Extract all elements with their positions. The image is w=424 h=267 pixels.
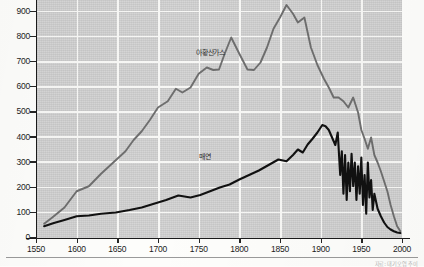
series-annotation-so2: 아황산가스 xyxy=(196,47,225,57)
caption-divider xyxy=(6,257,418,258)
series-annotation-soot: 매연 xyxy=(199,151,210,161)
figure-caption: 자료: 대기오염 추이 xyxy=(375,260,418,267)
series-line-soot xyxy=(44,125,400,233)
